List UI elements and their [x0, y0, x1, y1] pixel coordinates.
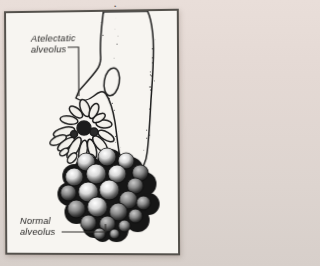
alveoli-illustration: Atelectatic alveolus Normal alveolus: [6, 11, 174, 249]
figure-panel: Atelectatic alveolus Normal alveolus: [4, 9, 180, 256]
cropped-caption-text: g gas exchange: [58, 2, 149, 8]
leader-line-atelectatic: [68, 47, 79, 96]
label-normal: Normal alveolus: [20, 216, 56, 237]
label-atelectatic: Atelectatic alveolus: [30, 33, 79, 55]
cropped-caption-line: g gas exchange: [0, 0, 188, 8]
